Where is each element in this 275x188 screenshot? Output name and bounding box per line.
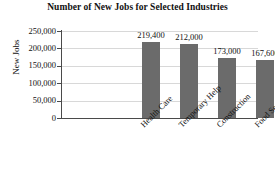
y-axis-tick-mark [57,31,61,32]
y-axis-tick-label-wrap: 150,000 [5,61,56,70]
y-axis-tick-label-wrap: 50,000 [5,96,56,105]
y-axis-tick-mark [57,83,61,84]
y-axis-tick-label: 250,000 [6,27,56,36]
chart-title: Number of New Jobs for Selected Industri… [0,2,275,12]
y-axis-tick-label-wrap: 250,000 [5,27,56,36]
y-axis-tick-mark [57,48,61,49]
y-axis-tick-label: 200,000 [6,44,56,53]
y-axis-tick-label: 150,000 [6,61,56,70]
y-axis-tick-label-wrap: 200,000 [5,44,56,53]
y-axis-tick-label: 0 [6,114,56,123]
y-axis-tick-mark [57,118,61,119]
y-axis-label: New Jobs [11,29,21,85]
y-axis-tick-label: 50,000 [6,96,56,105]
y-axis-tick-label-wrap: 0 [5,114,56,123]
y-axis-tick-mark [57,101,61,102]
bar-value-label: 212,000 [167,33,211,42]
y-axis-tick-label-wrap: 100,000 [5,79,56,88]
bar-chart: Number of New Jobs for Selected Industri… [0,0,275,188]
bar-value-label: 167,600 [243,49,275,58]
y-axis-tick-label: 100,000 [6,79,56,88]
y-axis-tick-mark [57,66,61,67]
